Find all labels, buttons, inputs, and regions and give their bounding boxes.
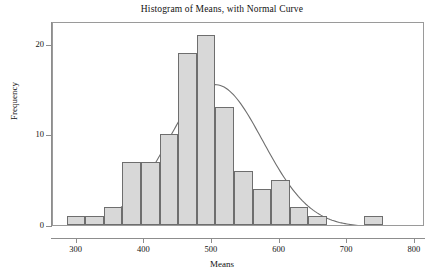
y-axis-tick-label: 10: [0, 129, 44, 139]
y-axis-tick: [46, 45, 51, 46]
x-axis-tick-label: 500: [191, 244, 231, 254]
x-axis-line: [51, 238, 425, 239]
histogram-bar: [364, 216, 383, 225]
y-axis-tick: [46, 226, 51, 227]
x-axis-tick: [414, 238, 415, 243]
histogram-bar: [253, 189, 272, 225]
chart-title: Histogram of Means, with Normal Curve: [0, 4, 444, 14]
histogram-bar: [215, 107, 234, 225]
histogram-bar: [85, 216, 104, 225]
histogram-figure: Histogram of Means, with Normal Curve Fr…: [0, 0, 444, 276]
x-axis-tick-label: 400: [123, 244, 163, 254]
x-axis-tick: [76, 238, 77, 243]
x-axis-tick-label: 300: [56, 244, 96, 254]
histogram-bar: [141, 162, 160, 225]
x-axis-tick-label: 800: [394, 244, 434, 254]
x-axis-tick: [346, 238, 347, 243]
histogram-bar: [197, 35, 216, 225]
histogram-bar: [234, 171, 253, 225]
x-axis-tick: [143, 238, 144, 243]
x-axis-tick-label: 600: [259, 244, 299, 254]
histogram-bar: [290, 207, 309, 225]
plot-area: [53, 23, 423, 225]
histogram-bar: [104, 207, 123, 225]
histogram-bar: [67, 216, 86, 225]
histogram-bar: [178, 53, 197, 225]
x-axis-tick: [211, 238, 212, 243]
y-axis-line: [51, 22, 52, 227]
histogram-bar: [271, 180, 290, 225]
y-axis-tick-label: 20: [0, 39, 44, 49]
histogram-bar: [160, 134, 179, 225]
plot-frame: [52, 22, 424, 226]
histogram-bar: [308, 216, 327, 225]
y-axis-tick: [46, 135, 51, 136]
x-axis-title: Means: [0, 259, 444, 269]
x-axis-tick-label: 700: [326, 244, 366, 254]
histogram-bar: [122, 162, 141, 225]
x-axis-tick: [279, 238, 280, 243]
y-axis-tick-label: 0: [0, 220, 44, 230]
